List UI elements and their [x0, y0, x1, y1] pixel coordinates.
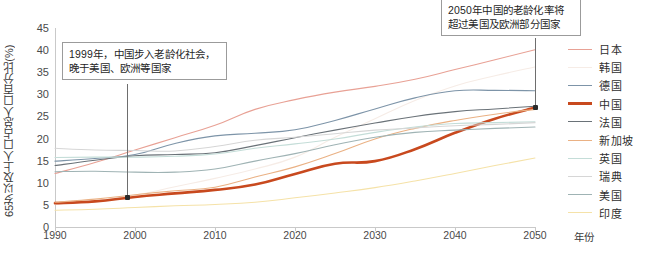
y-tick-label: 20 [37, 133, 49, 145]
legend: 日本韩国德国中国法国新加坡英国瑞典美国印度 [568, 40, 649, 222]
annotation-leader-2050 [535, 38, 536, 108]
legend-item-韩国[interactable]: 韩国 [568, 58, 649, 76]
chart-root: 65岁以及上人口占总人口百分比(%) 年份 051015202530354045… [0, 0, 649, 256]
x-tick-mark [135, 227, 136, 231]
legend-swatch-icon [568, 102, 592, 105]
y-tick-label: 25 [37, 110, 49, 122]
legend-label: 瑞典 [599, 168, 622, 184]
legend-swatch-icon [568, 158, 592, 159]
legend-swatch-icon [568, 194, 592, 195]
y-tick-label: 5 [43, 199, 49, 211]
y-tick-label: 10 [37, 177, 49, 189]
marker-dot-2050 [533, 105, 538, 110]
legend-item-法国[interactable]: 法国 [568, 113, 649, 131]
legend-swatch-icon [568, 121, 592, 122]
x-tick-mark [455, 227, 456, 231]
legend-swatch-icon [568, 176, 592, 177]
legend-label: 美国 [599, 187, 622, 203]
legend-item-日本[interactable]: 日本 [568, 40, 649, 58]
y-tick-label: 30 [37, 88, 49, 100]
clipped-headline [0, 0, 420, 6]
legend-item-英国[interactable]: 英国 [568, 149, 649, 167]
marker-dot-1999 [125, 195, 130, 200]
y-tick-label: 45 [37, 22, 49, 34]
legend-item-印度[interactable]: 印度 [568, 204, 649, 222]
x-axis-title: 年份 [574, 229, 594, 244]
legend-item-美国[interactable]: 美国 [568, 186, 649, 204]
legend-label: 英国 [599, 150, 622, 166]
y-tick-label: 40 [37, 44, 49, 56]
legend-label: 新加坡 [599, 132, 634, 148]
legend-item-新加坡[interactable]: 新加坡 [568, 131, 649, 149]
legend-swatch-icon [568, 49, 592, 50]
annotation-1999: 1999年，中国步入老龄化社会， 晚于美国、欧洲等国家 [62, 42, 227, 80]
legend-swatch-icon [568, 140, 592, 141]
legend-label: 日本 [599, 41, 622, 57]
y-tick-label: 15 [37, 155, 49, 167]
legend-item-中国[interactable]: 中国 [568, 95, 649, 113]
x-tick-mark [215, 227, 216, 231]
legend-item-德国[interactable]: 德国 [568, 76, 649, 94]
legend-item-瑞典[interactable]: 瑞典 [568, 167, 649, 185]
legend-label: 印度 [599, 205, 622, 221]
x-tick-mark [535, 227, 536, 231]
legend-label: 法国 [599, 114, 622, 130]
x-tick-mark [295, 227, 296, 231]
legend-label: 韩国 [599, 59, 622, 75]
legend-label: 德国 [599, 77, 622, 93]
y-tick-label: 35 [37, 66, 49, 78]
legend-swatch-icon [568, 85, 592, 86]
x-tick-mark [375, 227, 376, 231]
annotation-leader-1999 [127, 84, 128, 198]
legend-swatch-icon [568, 212, 592, 213]
y-axis-title: 65岁以及上人口占总人口百分比(%) [2, 38, 16, 223]
legend-swatch-icon [568, 67, 592, 68]
x-tick-mark [55, 227, 56, 231]
legend-label: 中国 [599, 96, 622, 112]
annotation-2050: 2050年中国的老龄化率将 超过美国及欧洲部分国家 [441, 0, 581, 36]
